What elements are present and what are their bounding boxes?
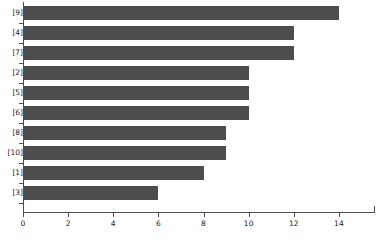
bar-fill [23,126,226,140]
bar-9 [23,6,339,20]
bar-fill [23,166,204,180]
x-tick-label: 2 [53,219,83,228]
bar-chart: [9][4][7][2][5][6][8][10][1][3] 02468101… [0,0,384,243]
y-tick-label: [10] [0,146,23,160]
bar-8 [23,126,226,140]
plot-area [23,0,375,212]
x-tick-mark [339,213,340,217]
x-tick-mark [249,213,250,217]
bar-1 [23,166,204,180]
bar-fill [23,46,294,60]
y-tick-label: [2] [0,66,23,80]
bar-7 [23,46,294,60]
y-tick-label: [8] [0,126,23,140]
x-tick-label: 12 [279,219,309,228]
bar-4 [23,26,294,40]
y-tick-label: [3] [0,186,23,200]
x-tick-mark [23,213,24,217]
y-tick-label: [4] [0,26,23,40]
bar-6 [23,106,249,120]
x-tick-label: 0 [8,219,38,228]
x-tick-label: 10 [234,219,264,228]
bar-fill [23,186,158,200]
y-tick-label: [9] [0,6,23,20]
x-tick-label: 14 [324,219,354,228]
x-tick-mark [158,213,159,217]
bar-fill [23,66,249,80]
bar-5 [23,86,249,100]
x-tick-mark [68,213,69,217]
y-tick-label: [1] [0,166,23,180]
bar-3 [23,186,158,200]
x-tick-label: 8 [189,219,219,228]
y-tick-label: [7] [0,46,23,60]
x-tick-mark [204,213,205,217]
bar-2 [23,66,249,80]
bar-fill [23,146,226,160]
bar-fill [23,6,339,20]
bar-fill [23,86,249,100]
y-tick-label: [5] [0,86,23,100]
bar-fill [23,26,294,40]
y-tick-label: [6] [0,106,23,120]
bar-10 [23,146,226,160]
x-tick-label: 4 [98,219,128,228]
x-tick-mark [113,213,114,217]
bar-fill [23,106,249,120]
x-axis-endcap [374,206,375,213]
x-tick-label: 6 [143,219,173,228]
x-tick-mark [294,213,295,217]
y-axis-line [23,2,24,212]
x-axis-line [23,212,375,213]
